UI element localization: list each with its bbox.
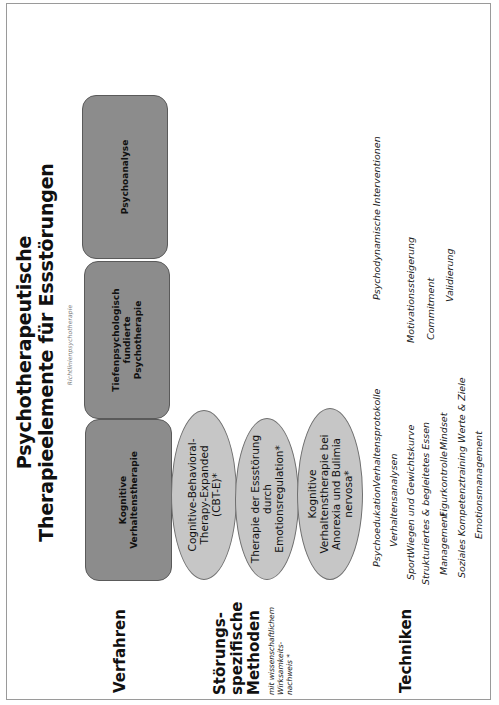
technique-figurkontrolle: Figurkontrolle — [438, 451, 449, 517]
title-line-2: Therapieelemente für Essstörungen — [36, 0, 56, 705]
technique-management: Management — [438, 512, 449, 575]
diagram-stage: Psychotherapeutische Therapieelemente fü… — [0, 0, 499, 705]
methoden-note-line3: nachweis * — [285, 654, 294, 695]
ellipse-emotionsregulation: Therapie der Essstörung durch Emotionsre… — [235, 418, 299, 580]
technique-emotionsmanagement: Emotionsmanagement — [473, 431, 484, 539]
technique-soziales-kompetenztraining: Soziales Kompetenztraining — [456, 446, 467, 578]
technique-psychodynamische-interventionen: Psychodynamische Interventionen — [371, 136, 382, 300]
diagram-frame — [6, 3, 491, 700]
technique-werte-ziele: Werte & Ziele — [456, 377, 467, 443]
box-psychoanalyse: Psychoanalyse — [82, 95, 168, 259]
technique-strukturiertes-essen: Strukturiertes & begleitetes Essen — [420, 422, 431, 585]
technique-verhaltensanalysen: Verhaltensanalysen — [388, 454, 399, 547]
technique-sport: Sport — [405, 554, 416, 580]
technique-verhaltensprotokolle: Verhaltensprotokolle — [371, 389, 382, 487]
ellipse-kvt-anorexia-bulimia: Kognitive Verhaltenstherapie bei Anorexi… — [297, 408, 363, 580]
ellipse-cbt-e: Cognitive-Behavioral- Therapy-Expanded (… — [171, 410, 237, 580]
title-line-1: Psychotherapeutische — [14, 0, 34, 705]
technique-validierung: Validierung — [444, 249, 455, 302]
technique-psychoedukation: Psychoedukation — [371, 486, 382, 567]
technique-wiegen: Wiegen und Gewichtskurve — [405, 425, 416, 555]
technique-mindset: Mindset — [438, 413, 449, 450]
row-label-techniken: Techniken — [398, 609, 415, 693]
box-tiefenpsychologisch: Tiefenpsychologisch fundierte Psychother… — [84, 261, 170, 419]
box-kognitive-verhaltenstherapie: Kognitive Verhaltenstherapie — [85, 419, 172, 581]
technique-motivationssteigerung: Motivationssteigerung — [405, 237, 416, 343]
technique-commitment: Commitment — [425, 278, 436, 340]
methoden-note-line1: mit wissenschaftlichem — [267, 607, 276, 695]
richtlinien-label: Richtlinienpsychotherapie — [66, 285, 73, 405]
row-label-verfahren: Verfahren — [112, 609, 129, 693]
methoden-note-line2: Wirksamkeits- — [276, 642, 285, 695]
